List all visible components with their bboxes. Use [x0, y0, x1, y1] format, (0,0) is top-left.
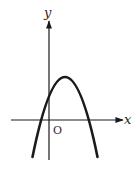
y-axis-label: y	[43, 5, 52, 20]
origin-label: O	[53, 124, 62, 137]
parabola-curve	[33, 77, 98, 157]
parabola-graph: x y O	[0, 0, 140, 169]
x-axis-label: x	[124, 112, 132, 127]
